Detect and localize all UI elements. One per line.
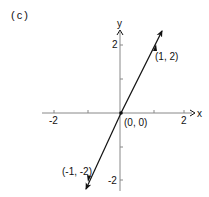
chart: x y -2 2 2 -2 (1, 2) (0, 0) (-1, -2): [0, 0, 209, 197]
data-line: [121, 31, 162, 113]
x-axis-label: x: [197, 108, 202, 119]
x-tick-label: -2: [49, 115, 58, 126]
point-label: (1, 2): [155, 51, 178, 62]
y-tick-label: -2: [108, 175, 117, 186]
data-point: [119, 111, 123, 115]
y-tick-label: 2: [112, 39, 118, 50]
y-axis-label: y: [117, 18, 122, 29]
point-label: (0, 0): [124, 117, 147, 128]
x-tick-label: 2: [181, 115, 187, 126]
point-label: (-1, -2): [62, 166, 92, 177]
